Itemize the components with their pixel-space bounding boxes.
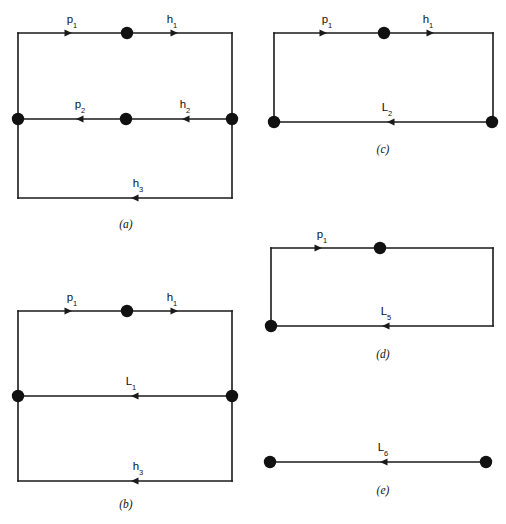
node-top-center <box>121 305 133 317</box>
arrowhead-c-top <box>320 29 328 36</box>
edge-label-d-bottom: L5 <box>381 305 392 322</box>
edge-label-b-top-right: h1 <box>167 291 178 308</box>
node-bottom-right-corner <box>486 116 498 128</box>
node-top-center <box>378 27 390 39</box>
arrowhead-b-top <box>65 307 73 314</box>
node-middle-center <box>120 113 132 125</box>
node-left-endpoint <box>264 456 276 468</box>
edge-label-a-top-right: h1 <box>167 13 178 30</box>
arrowhead-b-middle <box>131 392 139 399</box>
panel-caption-b: (b) <box>119 498 133 511</box>
panel-e: L6(e) <box>264 441 492 497</box>
diagram-canvas: p1h1p2h2h3(a)p1h1L1h3(b)p1h1L2(c)p1L5(d)… <box>0 0 506 524</box>
node-right-endpoint <box>480 456 492 468</box>
arrowhead-a-top-right <box>171 29 179 36</box>
arrowhead-c-top-right <box>427 29 435 36</box>
panel-caption-d: (d) <box>376 348 390 361</box>
panel-d: p1L5(d) <box>265 228 493 361</box>
node-bottom-left-corner <box>268 116 280 128</box>
edge-label-a-bottom: h3 <box>133 177 144 194</box>
arrowhead-b-bottom <box>131 477 139 484</box>
edge-label-a-middle-left: p2 <box>75 98 86 115</box>
arrowhead-d-bottom <box>382 322 390 329</box>
edge-label-b-bottom: h3 <box>133 460 144 477</box>
node-top-center <box>374 242 386 254</box>
node-middle-left-corner <box>12 113 24 125</box>
panel-caption-a: (a) <box>119 218 133 231</box>
arrowhead-a-middle-left <box>76 115 84 122</box>
edge-label-c-top: p1 <box>322 13 333 30</box>
node-bottom-left-corner <box>265 320 277 332</box>
arrowhead-e-segment <box>380 458 388 465</box>
edge-label-b-top: p1 <box>67 291 78 308</box>
edge-label-e-segment: L6 <box>378 441 389 458</box>
figure-container: p1h1p2h2h3(a)p1h1L1h3(b)p1h1L2(c)p1L5(d)… <box>0 0 506 524</box>
edge-label-c-top-right: h1 <box>423 13 434 30</box>
edge-label-d-top: p1 <box>317 228 328 245</box>
arrowhead-b-top-right <box>171 307 179 314</box>
panel-b: p1h1L1h3(b) <box>12 291 238 511</box>
edge-label-b-middle: L1 <box>126 375 137 392</box>
arrowhead-d-top <box>315 244 323 251</box>
arrowhead-c-bottom <box>387 118 395 125</box>
edge-label-a-middle-right: h2 <box>180 98 191 115</box>
arrowhead-a-top <box>65 29 73 36</box>
panel-caption-c: (c) <box>377 143 390 156</box>
node-middle-right-corner <box>226 113 238 125</box>
arrowhead-a-bottom <box>131 194 139 201</box>
node-middle-right-corner <box>226 390 238 402</box>
node-middle-left-corner <box>12 390 24 402</box>
edge-label-c-bottom: L2 <box>382 101 393 118</box>
node-top-center <box>121 27 133 39</box>
panel-a: p1h1p2h2h3(a) <box>12 13 238 231</box>
panel-caption-e: (e) <box>377 484 390 497</box>
panel-c: p1h1L2(c) <box>268 13 498 156</box>
arrowhead-a-middle-right <box>182 115 190 122</box>
edge-label-a-top: p1 <box>67 13 78 30</box>
